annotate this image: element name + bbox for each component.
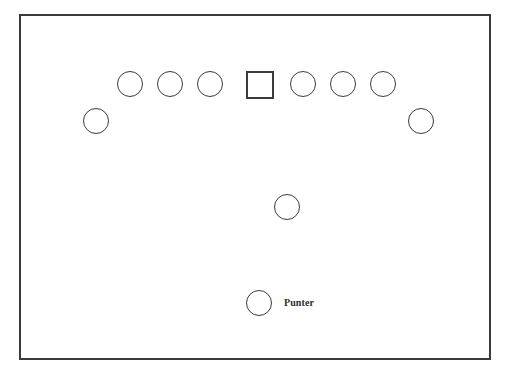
punt-formation-diagram: Punter xyxy=(0,0,509,380)
player-left-tackle[interactable] xyxy=(157,71,183,97)
player-left-end[interactable] xyxy=(117,71,143,97)
player-right-tackle[interactable] xyxy=(330,71,356,97)
player-center-snapper[interactable] xyxy=(246,71,274,99)
punter-label: Punter xyxy=(284,298,314,308)
player-left-gunner[interactable] xyxy=(83,108,109,134)
player-right-guard[interactable] xyxy=(290,71,316,97)
player-punter[interactable] xyxy=(246,290,272,316)
player-right-gunner[interactable] xyxy=(408,108,434,134)
player-right-end[interactable] xyxy=(370,71,396,97)
player-left-guard[interactable] xyxy=(197,71,223,97)
player-personal-protector[interactable] xyxy=(274,194,300,220)
